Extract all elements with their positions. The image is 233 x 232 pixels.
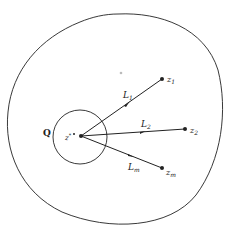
label-L2: L2 (140, 119, 151, 130)
point-zm (160, 166, 164, 170)
point-z-star-mark (73, 133, 75, 135)
label-z2: z2 (189, 126, 198, 136)
point-z-star (79, 134, 83, 138)
diagram-canvas: Q z* z1 z2 zm L1 L2 Lm (0, 0, 233, 232)
arrow-L1-icon (124, 101, 130, 107)
outer-region-boundary (7, 14, 222, 224)
label-Lm: Lm (127, 162, 140, 173)
label-z1: z1 (166, 75, 175, 85)
label-Q: Q (43, 128, 51, 138)
label-zm: zm (165, 168, 176, 178)
label-z-star: z* (64, 132, 72, 142)
arrow-Lm-icon (128, 154, 134, 157)
label-L1: L1 (122, 90, 133, 101)
point-z2 (183, 127, 187, 131)
faint-dot (120, 72, 123, 75)
point-z1 (160, 77, 164, 81)
segment-Lm (81, 136, 162, 168)
segment-L2 (81, 129, 185, 136)
